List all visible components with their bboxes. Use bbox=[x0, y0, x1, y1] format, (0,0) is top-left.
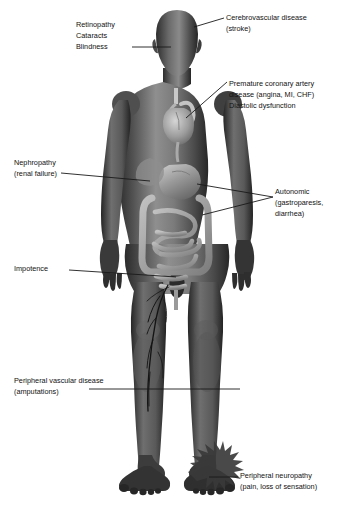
callout-line: Cataracts bbox=[76, 30, 115, 41]
callout-line: Premature coronary artery bbox=[229, 78, 314, 89]
leader-cerebrovascular bbox=[194, 18, 224, 27]
callout-line: diarrhea) bbox=[275, 208, 323, 219]
diabetes-complications-diagram: Retinopathy Cataracts Blindness Cerebrov… bbox=[0, 0, 354, 522]
callout-line: Autonomic bbox=[275, 186, 323, 197]
callout-line: Impotence bbox=[14, 263, 48, 274]
callout-line: Peripheral vascular disease bbox=[14, 375, 104, 386]
callout-peripheral-neuropathy: Peripheral neuropathy (pain, loss of sen… bbox=[240, 470, 317, 492]
callout-line: Nephropathy bbox=[14, 157, 57, 168]
callout-line: Retinopathy bbox=[76, 19, 115, 30]
callout-line: (amputations) bbox=[14, 386, 104, 397]
callout-line: (gastroparesis, bbox=[275, 197, 323, 208]
callout-line: Cerebrovascular disease bbox=[226, 12, 307, 23]
callout-nephropathy: Nephropathy (renal failure) bbox=[14, 157, 57, 179]
leader-coronary bbox=[186, 82, 227, 118]
leader-impotence bbox=[69, 270, 176, 277]
callout-line: Blindness bbox=[76, 41, 115, 52]
callout-impotence: Impotence bbox=[14, 263, 48, 274]
callout-line: (pain, loss of sensation) bbox=[240, 481, 317, 492]
callout-line: Diastolic dysfunction bbox=[229, 100, 314, 111]
callout-retinopathy: Retinopathy Cataracts Blindness bbox=[76, 19, 115, 52]
callout-cerebrovascular: Cerebrovascular disease (stroke) bbox=[226, 12, 307, 34]
callout-line: Peripheral neuropathy bbox=[240, 470, 317, 481]
callout-peripheral-vascular-disease: Peripheral vascular disease (amputations… bbox=[14, 375, 104, 397]
callout-line: (renal failure) bbox=[14, 168, 57, 179]
callout-autonomic: Autonomic (gastroparesis, diarrhea) bbox=[275, 186, 323, 219]
callout-line: (stroke) bbox=[226, 23, 307, 34]
leader-nephropathy bbox=[61, 173, 150, 181]
callout-line: disease (angina, MI, CHF) bbox=[229, 89, 314, 100]
callout-coronary-artery-disease: Premature coronary artery disease (angin… bbox=[229, 78, 314, 111]
leader-autonomic bbox=[197, 184, 273, 215]
